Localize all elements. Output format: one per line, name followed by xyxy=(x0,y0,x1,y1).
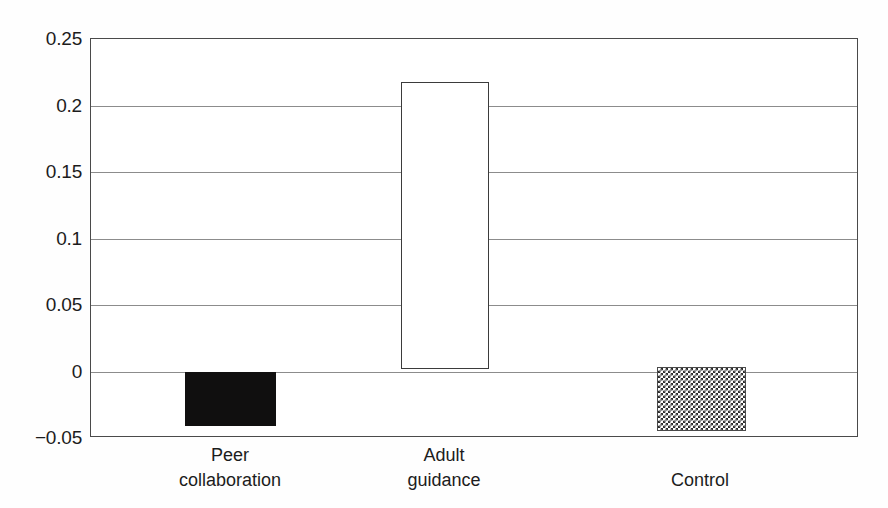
y-tick-label-6: −0.05 xyxy=(6,428,82,447)
x-label-control: Control xyxy=(620,443,780,493)
x-label-control-line2: Control xyxy=(620,468,780,493)
plot-area xyxy=(90,38,858,437)
y-tick-label-2: 0.15 xyxy=(6,162,82,181)
y-tick-label-1: 0.2 xyxy=(6,96,82,115)
x-label-adult-guidance: Adult guidance xyxy=(364,443,524,493)
bar-control xyxy=(657,367,746,431)
y-tick-label-0: 0.25 xyxy=(6,29,82,48)
x-label-peer-collaboration: Peer collaboration xyxy=(140,443,320,493)
bar-peer-collaboration xyxy=(185,372,276,426)
x-label-peer-collaboration-line1: Peer xyxy=(211,445,249,465)
x-label-peer-collaboration-line2: collaboration xyxy=(140,468,320,493)
y-tick-label-5: 0 xyxy=(6,362,82,381)
x-label-adult-guidance-line1: Adult xyxy=(423,445,464,465)
x-axis-category-labels: Peer collaboration Adult guidance Contro… xyxy=(90,443,858,505)
bar-adult-guidance xyxy=(401,82,489,369)
y-tick-label-4: 0.05 xyxy=(6,295,82,314)
y-axis-tick-labels: 0.25 0.2 0.15 0.1 0.05 0 −0.05 xyxy=(0,38,82,437)
bar-chart-figure: 0.25 0.2 0.15 0.1 0.05 0 −0.05 Peer coll… xyxy=(0,0,888,508)
y-tick-label-3: 0.1 xyxy=(6,229,82,248)
x-label-adult-guidance-line2: guidance xyxy=(364,468,524,493)
